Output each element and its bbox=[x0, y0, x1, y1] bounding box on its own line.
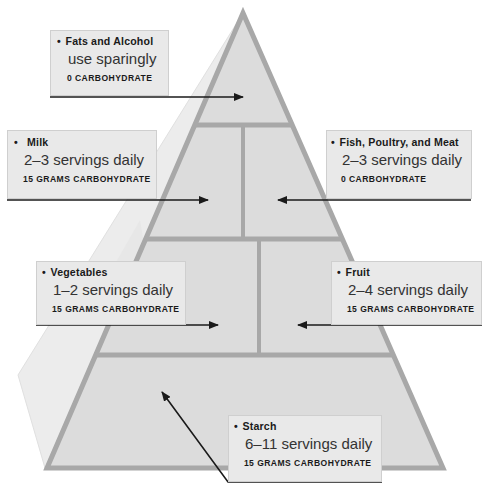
carb-text: 15 GRAMS CARBOHYDRATE bbox=[234, 457, 366, 468]
carb-text: 0 CARBOHYDRATE bbox=[331, 173, 457, 184]
label-box-fats: •Fats and Alcohol use sparingly 0 CARBOH… bbox=[50, 30, 169, 96]
group-title: •Vegetables bbox=[42, 266, 174, 278]
carb-text: 15 GRAMS CARBOHYDRATE bbox=[42, 303, 171, 314]
servings-text: 1–2 servings daily bbox=[42, 281, 185, 298]
servings-text: 2–4 servings daily bbox=[337, 281, 481, 298]
group-title: •Starch bbox=[234, 420, 369, 432]
servings-text: 2–3 servings daily bbox=[331, 151, 471, 168]
carb-text: 15 GRAMS CARBOHYDRATE bbox=[337, 303, 467, 314]
bullet-icon: • bbox=[42, 266, 46, 278]
label-box-vegetables: •Vegetables 1–2 servings daily 15 GRAMS … bbox=[36, 261, 186, 325]
servings-text: 6–11 servings daily bbox=[234, 435, 381, 452]
group-title: •Milk bbox=[14, 136, 145, 148]
group-title: •Fish, Poultry, and Meat bbox=[331, 136, 460, 148]
bullet-icon: • bbox=[337, 266, 341, 278]
servings-text: 2–3 servings daily bbox=[14, 151, 156, 168]
bullet-icon: • bbox=[14, 136, 18, 148]
servings-text: use sparingly bbox=[57, 50, 168, 67]
label-box-meat: •Fish, Poultry, and Meat 2–3 servings da… bbox=[326, 130, 472, 199]
bullet-icon: • bbox=[331, 136, 335, 148]
bullet-icon: • bbox=[57, 35, 61, 47]
label-box-starch: •Starch 6–11 servings daily 15 GRAMS CAR… bbox=[228, 415, 382, 482]
group-title: •Fruit bbox=[337, 266, 469, 278]
label-box-milk: •Milk 2–3 servings daily 15 GRAMS CARBOH… bbox=[7, 130, 157, 199]
group-title: •Fats and Alcohol bbox=[57, 35, 159, 47]
label-box-fruit: •Fruit 2–4 servings daily 15 GRAMS CARBO… bbox=[331, 261, 482, 325]
bullet-icon: • bbox=[234, 420, 238, 432]
carb-text: 0 CARBOHYDRATE bbox=[57, 72, 157, 83]
carb-text: 15 GRAMS CARBOHYDRATE bbox=[14, 173, 142, 184]
